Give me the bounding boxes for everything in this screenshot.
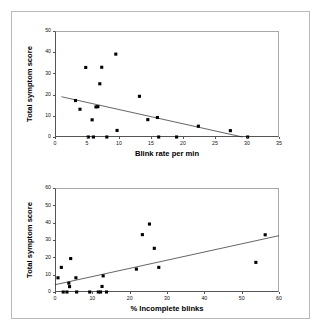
data-point-marker	[99, 290, 102, 293]
data-point-marker	[60, 266, 63, 269]
data-point-marker	[62, 290, 65, 293]
x-tick-label: 0	[45, 141, 65, 146]
x-axis-title-blink-rate: Blink rate per min	[55, 150, 279, 158]
y-tick-label: 60	[31, 185, 51, 190]
x-tick-mark	[279, 137, 280, 139]
y-tick-label: 30	[31, 237, 51, 242]
y-tick-mark	[53, 52, 55, 53]
data-point-marker	[156, 116, 159, 119]
data-point-marker	[100, 66, 103, 69]
figure-container: 0102030405005101520253035 Blink rate per…	[0, 0, 323, 329]
data-point-marker	[67, 282, 70, 285]
data-point-marker	[157, 135, 160, 138]
data-point-marker	[65, 290, 68, 293]
y-tick-label: 20	[31, 92, 51, 97]
y-tick-label: 0	[31, 134, 51, 139]
x-tick-label: 10	[82, 296, 102, 301]
y-tick-label: 50	[31, 203, 51, 208]
data-point-marker	[75, 290, 78, 293]
x-tick-label: 20	[173, 141, 193, 146]
data-point-marker	[141, 233, 144, 236]
x-axis-title-incomplete-blinks: % Incomplete blinks	[55, 305, 279, 313]
chart-panel-blink-rate: 0102030405005101520253035 Blink rate per…	[11, 13, 310, 168]
data-point-marker	[105, 135, 108, 138]
data-point-marker	[114, 53, 117, 56]
data-point-marker	[138, 95, 141, 98]
y-tick-mark	[53, 240, 55, 241]
x-tick-label: 30	[237, 141, 257, 146]
y-tick-mark	[53, 205, 55, 206]
data-point-marker	[78, 108, 81, 111]
data-point-marker	[175, 135, 178, 138]
x-tick-mark	[279, 292, 280, 294]
data-point-marker	[105, 290, 108, 293]
y-tick-mark	[53, 257, 55, 258]
x-tick-label: 35	[269, 141, 289, 146]
y-tick-label: 20	[31, 255, 51, 260]
y-tick-mark	[53, 95, 55, 96]
data-point-marker	[91, 118, 94, 121]
regression-line	[55, 236, 279, 285]
data-point-marker	[197, 125, 200, 128]
x-tick-label: 0	[45, 296, 65, 301]
x-tick-mark	[167, 292, 168, 294]
x-tick-label: 10	[109, 141, 129, 146]
x-tick-mark	[55, 292, 56, 294]
y-tick-mark	[53, 188, 55, 189]
y-tick-label: 10	[31, 272, 51, 277]
data-point-marker	[229, 129, 232, 132]
x-tick-label: 60	[269, 296, 289, 301]
y-tick-mark	[53, 275, 55, 276]
data-point-marker	[264, 233, 267, 236]
x-tick-label: 5	[77, 141, 97, 146]
y-axis-title-blink-rate: Total symptom score	[26, 31, 34, 137]
data-point-marker	[56, 276, 59, 279]
x-tick-mark	[215, 137, 216, 139]
data-point-marker	[74, 276, 77, 279]
data-point-marker	[68, 285, 71, 288]
data-point-marker	[74, 99, 77, 102]
data-point-marker	[92, 135, 95, 138]
regression-line	[61, 97, 242, 137]
data-point-marker	[148, 223, 151, 226]
data-point-marker	[84, 66, 87, 69]
x-tick-mark	[130, 292, 131, 294]
y-tick-mark	[53, 223, 55, 224]
x-tick-label: 50	[232, 296, 252, 301]
y-tick-label: 50	[31, 28, 51, 33]
y-axis-title-incomplete-blinks: Total symptom score	[26, 188, 34, 292]
x-tick-label: 30	[157, 296, 177, 301]
y-tick-label: 30	[31, 71, 51, 76]
y-tick-mark	[53, 73, 55, 74]
x-tick-label: 20	[120, 296, 140, 301]
y-tick-label: 0	[31, 289, 51, 294]
x-tick-mark	[55, 137, 56, 139]
data-point-marker	[69, 257, 72, 260]
x-tick-mark	[151, 137, 152, 139]
data-point-marker	[102, 274, 105, 277]
x-tick-mark	[204, 292, 205, 294]
data-point-marker	[146, 118, 149, 121]
x-tick-mark	[92, 292, 93, 294]
data-point-marker	[100, 285, 103, 288]
data-point-marker	[254, 261, 257, 264]
data-point-marker	[98, 82, 101, 85]
x-tick-mark	[247, 137, 248, 139]
x-tick-label: 25	[205, 141, 225, 146]
y-tick-mark	[53, 116, 55, 117]
x-tick-mark	[242, 292, 243, 294]
y-tick-label: 10	[31, 113, 51, 118]
data-point-marker	[157, 266, 160, 269]
x-tick-label: 40	[194, 296, 214, 301]
chart-panel-incomplete-blinks: 01020304050600102030405060 % Incomplete …	[11, 176, 310, 326]
data-point-marker	[116, 129, 119, 132]
x-tick-label: 15	[141, 141, 161, 146]
y-tick-label: 40	[31, 220, 51, 225]
data-point-marker	[153, 247, 156, 250]
x-tick-mark	[87, 137, 88, 139]
x-tick-mark	[183, 137, 184, 139]
data-point-marker	[96, 105, 99, 108]
x-tick-mark	[119, 137, 120, 139]
data-point-marker	[88, 290, 91, 293]
y-tick-mark	[53, 31, 55, 32]
